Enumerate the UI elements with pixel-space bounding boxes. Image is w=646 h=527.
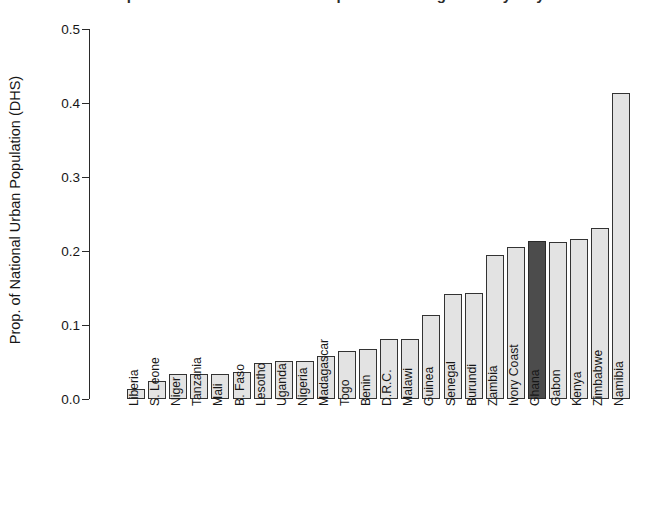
x-axis-tick-label: B. Faso [233,364,247,406]
x-axis-tick-label: Nigeria [296,367,310,406]
y-axis-tick-label: 0.1 [36,318,80,333]
x-axis-tick-label: Burundi [465,364,479,406]
x-axis-tick-label: D.R.C. [380,369,394,406]
y-axis-tick-mark [82,29,89,30]
x-axis-tick-label: Kenya [570,371,584,406]
x-axis-tick-label: Uganda [275,363,289,406]
x-axis-tick-label: Senegal [444,361,458,406]
x-axis-tick-label: Togo [338,380,352,406]
x-axis-tick-label: Zimbabwe [591,350,605,406]
y-axis-line [89,29,90,399]
y-axis-tick-label: 0.5 [36,22,80,37]
y-axis-tick-mark [82,177,89,178]
x-axis-tick-label: S. Leone [148,357,162,406]
x-axis-tick-label: Niger [169,377,183,406]
x-axis-tick-label: Ivory Coast [507,344,521,406]
x-axis-tick-label: Madagascar [317,339,331,406]
bar-namibia [612,93,630,399]
x-axis-tick-label: Gabon [549,369,563,406]
y-axis-tick-label: 0.2 [36,244,80,259]
x-axis-tick-label: Zambia [486,365,500,406]
x-axis-tick-label: Liberia [127,369,141,406]
x-axis-tick-label: Guinea [422,367,436,406]
x-axis-tick-label: Tanzania [190,357,204,406]
y-axis-tick-label: 0.3 [36,170,80,185]
y-axis-tick-mark [82,103,89,104]
x-axis-tick-label: Malawi [401,368,415,406]
x-axis-tick-label: Benin [359,375,373,406]
y-axis-tick-mark [82,325,89,326]
x-axis-tick-label: Ghana [528,369,542,406]
y-axis-tick-label: 0.4 [36,96,80,111]
plot-area: 0.00.10.20.30.40.5 LiberiaS. LeoneNigerT… [0,0,646,527]
y-axis-tick-mark [82,399,89,400]
x-axis-tick-label: Mali [211,384,225,406]
y-axis-tick-mark [82,251,89,252]
bar-chart-figure: Proportion of National Urban Population … [0,0,646,527]
x-axis-tick-label: Namibia [612,361,626,406]
x-axis-tick-label: Lesotho [254,363,268,406]
y-axis-tick-label: 0.0 [36,392,80,407]
